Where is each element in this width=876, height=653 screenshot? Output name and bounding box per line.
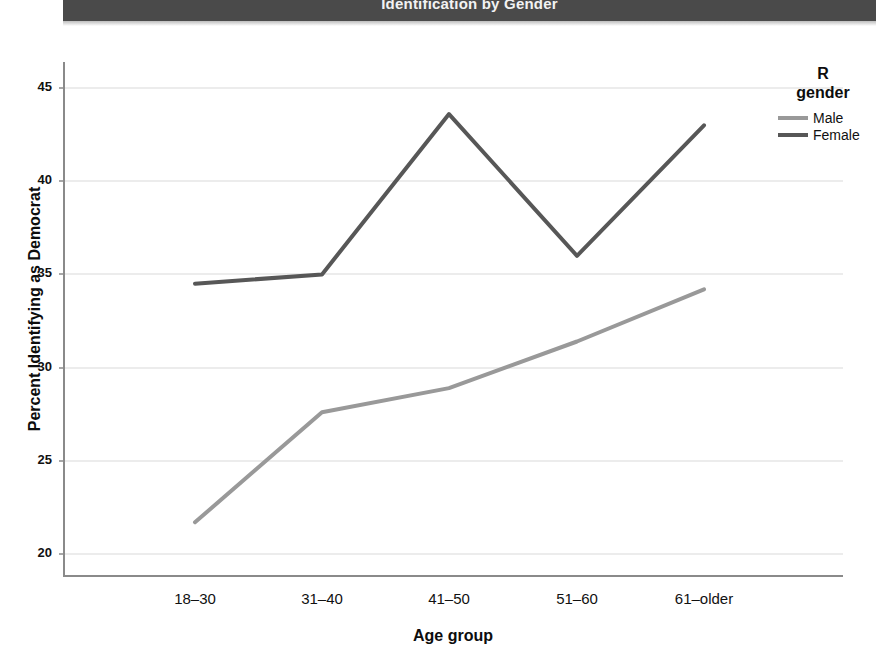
- legend-label-female: Female: [813, 127, 860, 143]
- chart-figure: Identification by Gender 45 40 35 30 25 …: [0, 0, 876, 653]
- chart-title: Identification by Gender: [63, 0, 876, 14]
- legend-swatch-female: [778, 133, 808, 137]
- legend-item-male: Male: [778, 109, 876, 126]
- x-axis-title: Age group: [63, 627, 843, 645]
- legend-label-male: Male: [813, 110, 843, 126]
- legend-title-line-1: R: [770, 64, 876, 83]
- chart-title-bar: Identification by Gender: [63, 0, 876, 21]
- x-tick-label-61-older: 61–older: [629, 590, 779, 607]
- legend-swatch-male: [778, 116, 808, 120]
- y-tick-label-45: 45: [18, 79, 52, 94]
- legend-item-female: Female: [778, 126, 876, 143]
- y-axis-title: Percent Identifying as Democrat: [26, 99, 44, 519]
- legend: R gender Male Female: [770, 64, 876, 143]
- title-bar-shadow: [63, 21, 876, 26]
- y-tick-label-20: 20: [18, 545, 52, 560]
- legend-entries: Male Female: [770, 109, 876, 143]
- plot-area: [63, 62, 843, 577]
- legend-title-line-2: gender: [770, 83, 876, 102]
